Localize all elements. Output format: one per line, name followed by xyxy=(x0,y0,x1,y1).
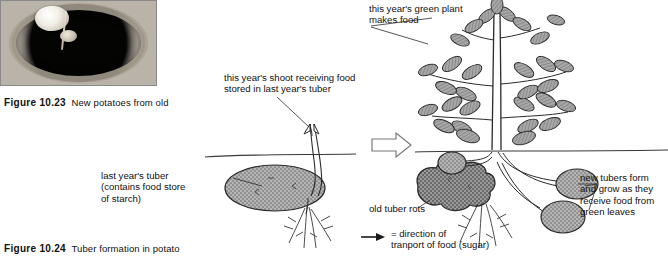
left-stage-group xyxy=(205,124,356,248)
last-year-tuber-shape xyxy=(225,165,325,211)
figure-page: Figure 10.23 New potatoes from old Figur… xyxy=(0,0,668,266)
shoot-tip-right-leaf xyxy=(314,124,319,134)
stage-transition-arrow xyxy=(372,133,411,157)
label-green-plant-makes-food: this year's green plant makes food xyxy=(369,3,509,26)
root-system-left xyxy=(284,206,333,248)
key-text: = direction of tranport of food (sugar) xyxy=(391,228,541,251)
label-this-years-shoot: this year's shoot receiving food stored … xyxy=(224,72,394,95)
tuber-formation-diagram xyxy=(0,0,668,266)
new-tuber-right-lower xyxy=(541,201,585,233)
soil-surface-line-left xyxy=(205,154,356,157)
plant-main-stem-left xyxy=(492,10,494,150)
label-last-years-tuber: last year's tuber (contains food store o… xyxy=(101,170,226,204)
leaf-cluster-mid-left xyxy=(417,53,484,103)
label-old-tuber-rots: old tuber rots xyxy=(369,203,459,214)
leader-shoot xyxy=(277,97,309,127)
plant-main-stem-right xyxy=(500,10,501,150)
new-tuber-upper-left xyxy=(438,152,466,174)
right-arrow-icon xyxy=(361,232,387,242)
label-new-tubers-form: new tubers form and grow as they receive… xyxy=(580,172,668,218)
